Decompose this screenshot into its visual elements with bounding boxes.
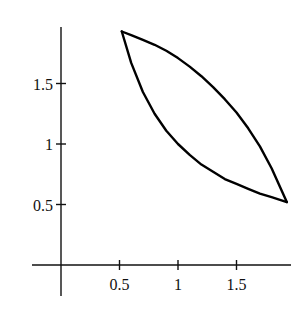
x-tick-label: 1.5 xyxy=(227,276,247,293)
tick-labels: 0.511.50.511.5 xyxy=(33,76,247,294)
upper-curve xyxy=(122,32,287,203)
chart: 0.511.50.511.5 xyxy=(0,0,302,319)
y-tick-label: 1 xyxy=(45,136,53,153)
x-tick-label: 1 xyxy=(174,276,182,293)
axes xyxy=(32,27,291,296)
y-tick-label: 1.5 xyxy=(33,76,53,93)
lower-curve xyxy=(122,32,287,203)
x-tick-label: 0.5 xyxy=(110,276,130,293)
region-boundary xyxy=(122,32,287,203)
y-tick-label: 0.5 xyxy=(33,197,53,214)
ticks xyxy=(56,84,237,271)
